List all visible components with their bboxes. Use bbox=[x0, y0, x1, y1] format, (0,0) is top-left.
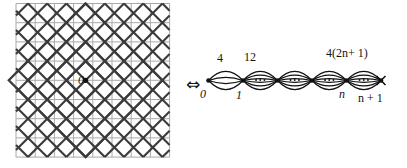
edge-multiplicity-label-first: 4 bbox=[217, 52, 223, 64]
origin-label: 0 bbox=[78, 74, 84, 86]
general-prefix: 4(2 bbox=[326, 46, 342, 60]
edge-multiplicity-label-general: 4(2n+ 1) bbox=[326, 47, 368, 59]
vertex-label-n-plus-1: n + 1 bbox=[358, 92, 383, 104]
general-suffix: + 1) bbox=[348, 46, 368, 60]
vertex-label-n: n bbox=[339, 88, 345, 100]
vertex-label-0: 0 bbox=[200, 88, 206, 100]
vertex-label-1: 1 bbox=[236, 89, 242, 101]
last-suffix: + 1 bbox=[367, 91, 383, 105]
last-prefix: n bbox=[358, 91, 364, 105]
edge-multiplicity-label-second: 12 bbox=[244, 51, 256, 63]
